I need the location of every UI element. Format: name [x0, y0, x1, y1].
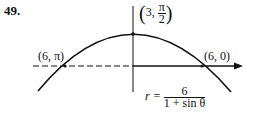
vertex-point — [131, 32, 135, 36]
parabola-curve — [38, 34, 231, 92]
left-point — [63, 64, 66, 67]
figure: 49. (3, π2) (6, π) (6, 0) r = 61 + sin θ — [0, 0, 258, 115]
left-point-label: (6, π) — [38, 49, 64, 64]
right-point-label: (6, 0) — [204, 49, 230, 64]
equation: r = 61 + sin θ — [145, 86, 205, 109]
right-point — [200, 64, 203, 67]
vertex-label: (3, π2) — [139, 2, 172, 25]
arrowhead-icon — [234, 63, 243, 70]
